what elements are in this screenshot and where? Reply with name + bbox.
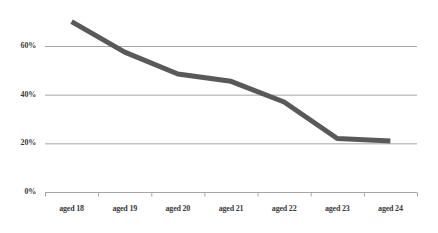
x-axis-tick-label: aged 20 bbox=[150, 204, 206, 213]
x-axis-tick-label: aged 19 bbox=[97, 204, 153, 213]
y-axis-tick-label: 40% bbox=[8, 90, 36, 99]
x-axis-tick-label: aged 18 bbox=[44, 204, 100, 213]
gridlines bbox=[45, 47, 417, 193]
data-series-line bbox=[72, 22, 391, 141]
line-chart: 0%20%40%60% aged 18aged 19aged 20aged 21… bbox=[0, 0, 438, 233]
x-axis-tick-label: aged 22 bbox=[256, 204, 312, 213]
chart-plot-area bbox=[0, 0, 438, 233]
x-axis-tick-label: aged 23 bbox=[309, 204, 365, 213]
y-axis-tick-label: 60% bbox=[8, 41, 36, 50]
y-axis-tick-label: 0% bbox=[8, 187, 36, 196]
x-axis-tick-label: aged 24 bbox=[362, 204, 418, 213]
y-axis-tick-label: 20% bbox=[8, 138, 36, 147]
x-axis-tick-label: aged 21 bbox=[203, 204, 259, 213]
x-axis-tick-marks bbox=[46, 193, 418, 197]
